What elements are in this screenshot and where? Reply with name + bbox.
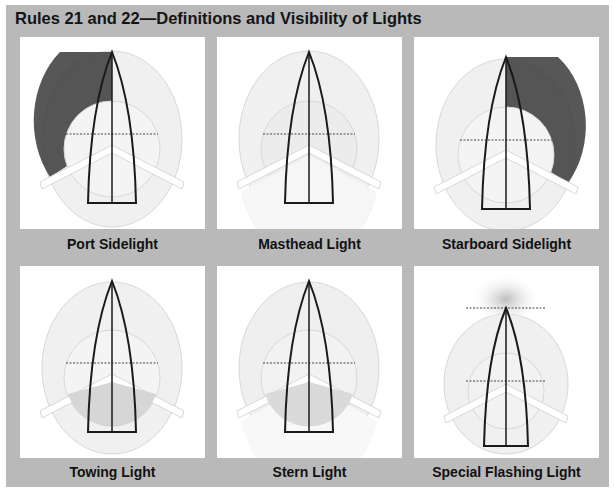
panel-masthead-light — [217, 37, 402, 229]
label-masthead-light: Masthead Light — [217, 236, 402, 252]
panel-special-flashing-light — [414, 266, 599, 458]
panel-port-sidelight — [20, 37, 205, 229]
label-starboard-sidelight: Starboard Sidelight — [414, 236, 599, 252]
panel-starboard-sidelight — [414, 37, 599, 229]
stern-light-diagram — [217, 266, 402, 458]
starboard-sidelight-diagram — [414, 37, 599, 229]
special-flashing-light-diagram — [414, 266, 599, 458]
masthead-light-diagram — [217, 37, 402, 229]
page-title: Rules 21 and 22—Definitions and Visibili… — [15, 9, 422, 28]
label-port-sidelight: Port Sidelight — [20, 236, 205, 252]
panel-stern-light — [217, 266, 402, 458]
label-stern-light: Stern Light — [217, 464, 402, 480]
label-special-flashing-light: Special Flashing Light — [414, 464, 599, 480]
panel-towing-light — [20, 266, 205, 458]
towing-light-diagram — [20, 266, 205, 458]
label-towing-light: Towing Light — [20, 464, 205, 480]
port-sidelight-diagram — [20, 37, 205, 229]
